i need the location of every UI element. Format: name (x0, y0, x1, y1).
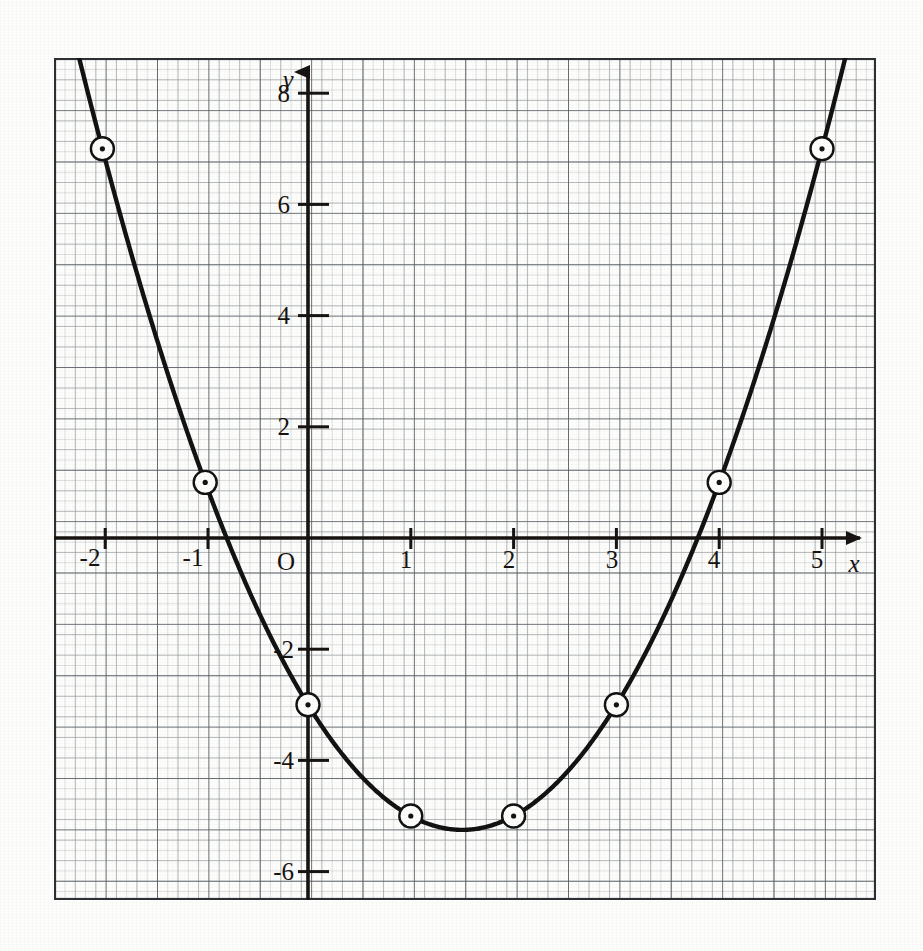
marker-dot (408, 813, 413, 818)
grid-layer (54, 58, 876, 900)
plotted-point-marker (502, 805, 525, 828)
plotted-point-marker (811, 137, 834, 160)
x-tick-label-4: 4 (708, 546, 721, 573)
y-tick-label-neg6: -6 (273, 858, 294, 885)
marker-dot (203, 480, 208, 485)
x-tick-label-3: 3 (606, 546, 619, 573)
x-tick-label-2: 2 (503, 546, 516, 573)
y-axis-label: y (279, 66, 294, 93)
marker-dot (511, 813, 516, 818)
grid-heavy (54, 58, 876, 900)
plotted-point-marker (399, 805, 422, 828)
plotted-point-marker (297, 693, 320, 716)
plotted-point-marker (194, 471, 217, 494)
plotted-point-marker (91, 137, 114, 160)
x-tick-label-neg2: -2 (80, 544, 101, 571)
marker-dot (717, 480, 722, 485)
x-tick-label-1: 1 (400, 546, 413, 573)
marker-dot (305, 702, 310, 707)
plotted-point-marker (708, 471, 731, 494)
graph-plot-area: -2 -1 1 2 3 4 5 8 6 4 2 -2 -4 -6 O x y (54, 58, 876, 900)
marker-dot (614, 702, 619, 707)
y-tick-label-2: 2 (278, 413, 291, 440)
y-tick-label-4: 4 (278, 302, 291, 329)
graph-svg: -2 -1 1 2 3 4 5 8 6 4 2 -2 -4 -6 O x y (54, 58, 876, 900)
figure-canvas: -2 -1 1 2 3 4 5 8 6 4 2 -2 -4 -6 O x y (0, 0, 923, 951)
x-tick-label-5: 5 (811, 546, 824, 573)
marker-dot (819, 146, 824, 151)
x-axis-label: x (847, 550, 859, 577)
x-tick-label-neg1: -1 (183, 544, 204, 571)
y-tick-label-neg4: -4 (273, 747, 294, 774)
marker-dot (100, 146, 105, 151)
origin-label: O (277, 548, 295, 575)
plotted-point-marker (605, 693, 628, 716)
y-tick-label-6: 6 (278, 191, 291, 218)
